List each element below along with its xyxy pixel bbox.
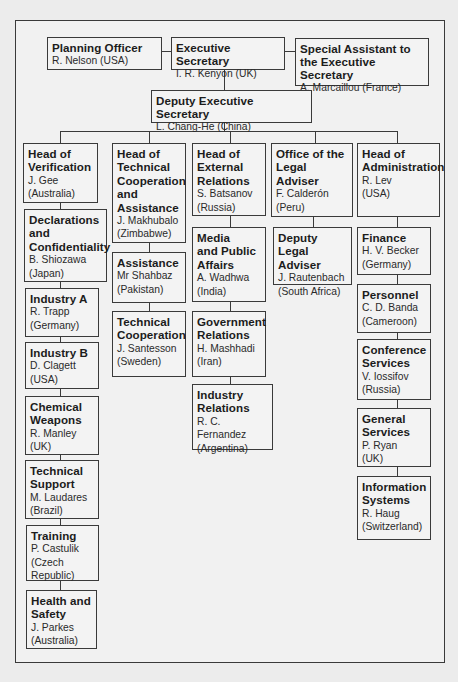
box-name: J. Santesson (Sweden) [117, 342, 181, 369]
box-title: Technical Support [30, 464, 94, 491]
box-title: Assistance [117, 256, 181, 269]
training-box: Training P. Castulik (Czech Republic) [26, 525, 99, 581]
box-title: Chemical Weapons [30, 400, 94, 427]
box-name: R. C. Fernandez (Argentina) [197, 415, 268, 455]
chemical-weapons-box: Chemical Weapons R. Manley (UK) [25, 396, 99, 455]
box-title: Personnel [362, 288, 426, 301]
box-name: J. Makhubalo (Zimbabwe) [117, 214, 181, 241]
information-systems-box: Information Systems R. Haug (Switzerland… [357, 476, 431, 540]
box-name: J. Rautenbach (South Africa) [278, 271, 347, 298]
box-title: Government Relations [197, 315, 261, 342]
box-name: L. Chang-He (China) [156, 120, 307, 133]
box-title: Information Systems [362, 480, 426, 507]
box-title: Health and Safety [31, 594, 92, 621]
general-services-box: General Services P. Ryan (UK) [357, 408, 431, 467]
box-name: R. Nelson (USA) [52, 54, 157, 67]
box-title: General Services [362, 412, 426, 439]
media-public-affairs-box: Media and Public Affairs A. Wadhwa (Indi… [192, 227, 266, 302]
special-assistant-box: Special Assistant to the Executive Secre… [295, 38, 429, 86]
box-title: Finance [362, 231, 426, 244]
box-title: Head of Administration [362, 147, 435, 174]
box-title: Deputy Executive Secretary [156, 94, 307, 120]
technical-support-box: Technical Support M. Laudares (Brazil) [25, 460, 99, 519]
connector [149, 131, 150, 143]
box-name: D. Clagett (USA) [30, 359, 94, 386]
box-name: P. Castulik (Czech Republic) [31, 542, 94, 582]
box-title: Declarations and Confidentiality [29, 213, 102, 253]
box-name: J. Gee (Australia) [28, 174, 93, 201]
industry-relations-box: Industry Relations R. C. Fernandez (Arge… [192, 384, 273, 450]
box-name: S. Batsanov (Russia) [197, 187, 261, 214]
box-name: J. Parkes (Australia) [31, 621, 92, 648]
box-name: H. V. Becker (Germany) [362, 244, 426, 271]
head-of-external-relations-box: Head of External Relations S. Batsanov (… [192, 143, 266, 216]
box-name: R. Manley (UK) [30, 427, 94, 454]
technical-cooperation-box: Technical Cooperation J. Santesson (Swed… [112, 311, 186, 377]
box-title: Head of Verification [28, 147, 93, 174]
connector [60, 131, 61, 143]
industry-b-box: Industry B D. Clagett (USA) [25, 342, 99, 389]
box-title: Media and Public Affairs [197, 231, 261, 271]
box-title: Head of External Relations [197, 147, 261, 187]
health-and-safety-box: Health and Safety J. Parkes (Australia) [26, 590, 97, 649]
box-name: B. Shiozawa (Japan) [29, 253, 102, 280]
box-name: A. Marcaillou (France) [300, 81, 424, 94]
box-title: Office of the Legal Adviser [276, 147, 348, 187]
head-of-verification-box: Head of Verification J. Gee (Australia) [23, 143, 98, 203]
assistance-box: Assistance Mr Shahbaz (Pakistan) [112, 252, 186, 303]
box-title: Technical Cooperation [117, 315, 181, 342]
box-name: C. D. Banda (Cameroon) [362, 301, 426, 328]
head-of-administration-box: Head of Administration R. Lev (USA) [357, 143, 440, 217]
box-name: M. Laudares (Brazil) [30, 491, 94, 518]
connector [285, 51, 295, 52]
box-title: Executive Secretary [176, 41, 280, 67]
box-name: Mr Shahbaz (Pakistan) [117, 269, 181, 296]
box-title: Planning Officer [52, 41, 157, 54]
planning-officer-box: Planning Officer R. Nelson (USA) [47, 37, 162, 70]
box-title: Industry A [30, 292, 94, 305]
box-title: Conference Services [362, 343, 426, 370]
box-name: F. Calderón (Peru) [276, 187, 348, 214]
box-name: R. Haug (Switzerland) [362, 507, 426, 534]
government-relations-box: Government Relations H. Mashhadi (Iran) [192, 311, 266, 377]
box-title: Training [31, 529, 94, 542]
box-name: A. Wadhwa (India) [197, 271, 261, 298]
deputy-executive-secretary-box: Deputy Executive Secretary L. Chang-He (… [151, 90, 312, 123]
executive-secretary-box: Executive Secretary I. R. Kenyon (UK) [171, 37, 285, 70]
box-title: Industry Relations [197, 388, 268, 415]
box-name: P. Ryan (UK) [362, 439, 426, 466]
box-name: H. Mashhadi (Iran) [197, 342, 261, 369]
connector [397, 131, 398, 143]
box-name: R. Lev (USA) [362, 174, 435, 201]
office-of-legal-adviser-box: Office of the Legal Adviser F. Calderón … [271, 143, 353, 217]
box-name: R. Trapp (Germany) [30, 305, 94, 332]
connector [162, 51, 171, 52]
finance-box: Finance H. V. Becker (Germany) [357, 227, 431, 275]
box-name: I. R. Kenyon (UK) [176, 67, 280, 80]
box-title: Industry B [30, 346, 94, 359]
connector [313, 217, 314, 227]
box-title: Head of Technical Cooperation and Assist… [117, 147, 181, 214]
box-title: Deputy Legal Adviser [278, 231, 347, 271]
box-title: Special Assistant to the Executive Secre… [300, 42, 424, 81]
box-name: V. Iossifov (Russia) [362, 370, 426, 397]
industry-a-box: Industry A R. Trapp (Germany) [25, 288, 99, 337]
declarations-box: Declarations and Confidentiality B. Shio… [24, 209, 107, 282]
connector [315, 131, 316, 143]
head-of-technical-cooperation-box: Head of Technical Cooperation and Assist… [112, 143, 186, 243]
deputy-legal-adviser-box: Deputy Legal Adviser J. Rautenbach (Sout… [273, 227, 352, 285]
conference-services-box: Conference Services V. Iossifov (Russia) [357, 339, 431, 400]
personnel-box: Personnel C. D. Banda (Cameroon) [357, 284, 431, 333]
